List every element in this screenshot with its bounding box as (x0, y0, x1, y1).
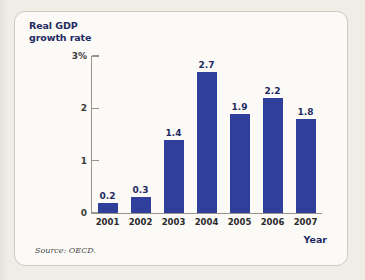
bar-slot: 0.2 (91, 56, 124, 213)
x-tick-label: 2003 (157, 217, 190, 227)
chart-card: Real GDP growth rate 0123% 0.20.31.42.71… (14, 11, 348, 266)
bar-value-label: 2.2 (265, 86, 281, 96)
y-axis-title: Real GDP growth rate (29, 20, 103, 44)
x-tick-label: 2002 (124, 217, 157, 227)
page-background: Real GDP growth rate 0123% 0.20.31.42.71… (0, 0, 365, 280)
bar-value-label: 1.9 (232, 102, 248, 112)
bar[interactable] (263, 98, 283, 213)
bar-slot: 1.9 (223, 56, 256, 213)
source-note: Source: OECD. (35, 246, 96, 255)
x-tick-label: 2007 (289, 217, 322, 227)
bar-value-label: 1.8 (298, 107, 314, 117)
bar[interactable] (164, 140, 184, 213)
y-axis-title-line2: growth rate (29, 32, 103, 44)
bar-value-label: 0.2 (100, 191, 116, 201)
bar[interactable] (296, 119, 316, 213)
x-tick-label: 2005 (223, 217, 256, 227)
y-tick-label: 0 (47, 208, 87, 218)
bar-value-label: 0.3 (133, 185, 149, 195)
x-axis-title: Year (303, 234, 327, 245)
x-tick-label: 2001 (91, 217, 124, 227)
x-axis-line (91, 213, 322, 214)
x-tick-label: 2006 (256, 217, 289, 227)
bar[interactable] (230, 114, 250, 213)
bar-slot: 1.4 (157, 56, 190, 213)
bar[interactable] (98, 203, 118, 213)
x-tick-label: 2004 (190, 217, 223, 227)
y-tick-label: 1 (47, 156, 87, 166)
bar[interactable] (197, 72, 217, 213)
bar-series: 0.20.31.42.71.92.21.8 (91, 56, 322, 213)
bar-slot: 0.3 (124, 56, 157, 213)
y-tick-label: 2 (47, 103, 87, 113)
bar-slot: 2.7 (190, 56, 223, 213)
bar-slot: 2.2 (256, 56, 289, 213)
bar-slot: 1.8 (289, 56, 322, 213)
bar-chart: Real GDP growth rate 0123% 0.20.31.42.71… (15, 12, 349, 267)
y-tick-label: 3% (47, 51, 87, 61)
bar-value-label: 1.4 (166, 128, 182, 138)
bar-value-label: 2.7 (199, 60, 215, 70)
bar[interactable] (131, 197, 151, 213)
y-axis-title-line1: Real GDP (29, 20, 78, 31)
